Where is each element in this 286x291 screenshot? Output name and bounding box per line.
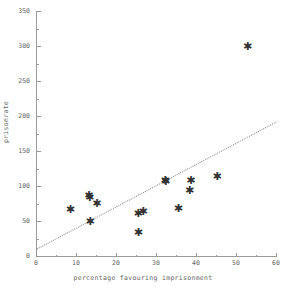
x-tick-minor xyxy=(56,255,57,257)
x-tick-label: 0 xyxy=(24,259,48,267)
y-tick-label: 50 xyxy=(6,217,30,225)
data-point-marker: ✱ xyxy=(185,175,196,186)
y-tick-minor xyxy=(37,204,39,205)
x-tick-label: 60 xyxy=(264,259,286,267)
x-tick-label: 40 xyxy=(184,259,208,267)
x-tick xyxy=(196,253,197,257)
y-tick xyxy=(37,46,41,47)
data-point-marker: ✱ xyxy=(138,206,149,217)
y-tick-minor xyxy=(37,239,39,240)
x-tick-minor xyxy=(136,255,137,257)
regression-line xyxy=(36,122,276,250)
x-tick-label: 50 xyxy=(224,259,248,267)
y-tick-label: 300 xyxy=(6,42,30,50)
x-tick-minor xyxy=(176,255,177,257)
y-tick xyxy=(37,81,41,82)
x-tick-label: 10 xyxy=(64,259,88,267)
data-point-marker: ✱ xyxy=(160,176,171,187)
y-tick xyxy=(37,151,41,152)
x-tick-label: 20 xyxy=(104,259,128,267)
y-tick-minor xyxy=(37,29,39,30)
x-tick xyxy=(276,253,277,257)
y-tick-label: 350 xyxy=(6,7,30,15)
x-tick-minor xyxy=(256,255,257,257)
y-tick-minor xyxy=(37,134,39,135)
x-tick xyxy=(156,253,157,257)
y-axis-label: prisonrate xyxy=(2,90,10,154)
data-point-marker: ✱ xyxy=(212,171,223,182)
data-point-marker: ✱ xyxy=(173,203,184,214)
y-tick-label: 250 xyxy=(6,77,30,85)
scatter-plot: 0102030405060050100150200250300350 ✱✱✱✱✱… xyxy=(0,0,286,291)
x-axis-label: percentage favouring imprisonment xyxy=(0,274,286,282)
y-tick-minor xyxy=(37,99,39,100)
y-tick xyxy=(37,11,41,12)
y-tick-minor xyxy=(37,64,39,65)
y-tick-minor xyxy=(37,169,39,170)
data-point-marker: ✱ xyxy=(184,185,195,196)
y-tick xyxy=(37,221,41,222)
y-tick xyxy=(37,116,41,117)
x-tick xyxy=(76,253,77,257)
y-tick xyxy=(37,186,41,187)
y-tick-label: 0 xyxy=(6,252,30,260)
data-point-marker: ✱ xyxy=(65,204,76,215)
x-tick-minor xyxy=(96,255,97,257)
y-tick xyxy=(37,256,41,257)
data-point-marker: ✱ xyxy=(85,216,96,227)
x-tick xyxy=(116,253,117,257)
x-tick-minor xyxy=(216,255,217,257)
data-point-marker: ✱ xyxy=(242,41,253,52)
x-tick xyxy=(236,253,237,257)
data-point-marker: ✱ xyxy=(133,227,144,238)
x-tick-label: 30 xyxy=(144,259,168,267)
y-tick-label: 100 xyxy=(6,182,30,190)
data-point-marker: ✱ xyxy=(91,198,102,209)
